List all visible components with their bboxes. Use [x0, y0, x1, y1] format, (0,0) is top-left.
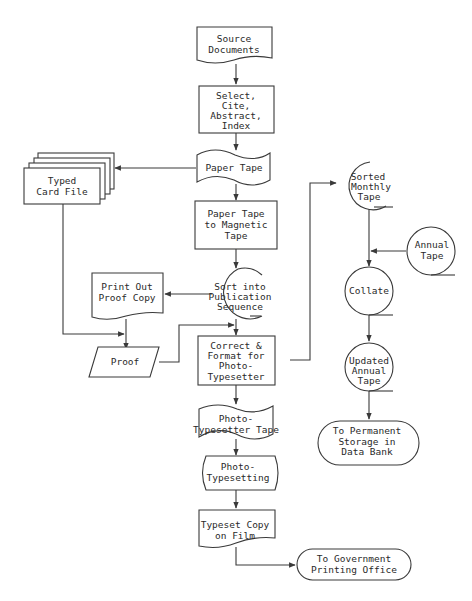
node-label: Printing Office	[311, 564, 397, 575]
node-sorted-monthly-tape[interactable]: Sorted Monthly Tape	[349, 162, 393, 210]
node-label: Typesetter	[207, 371, 264, 382]
node-label: Typed	[48, 175, 77, 186]
node-phototypesetter-tape[interactable]: Photo- Typesetter Tape	[193, 405, 279, 439]
node-label: Collate	[349, 285, 389, 296]
node-label: Annual	[415, 239, 449, 250]
flowchart-canvas: Source Documents Select, Cite, Abstract,…	[0, 0, 472, 601]
node-government-printing-office[interactable]: To Government Printing Office	[297, 549, 411, 580]
node-label: Print Out	[101, 281, 152, 292]
node-sort-into-publication-sequence[interactable]: Sort into Publication Sequence	[209, 268, 272, 319]
node-label: Tape	[358, 191, 381, 202]
node-label: Paper Tape	[205, 162, 262, 173]
node-label: Tape	[225, 230, 248, 241]
node-collate[interactable]: Collate	[345, 267, 393, 315]
node-label: Proof	[111, 356, 140, 367]
node-label: Card File	[36, 186, 88, 197]
node-updated-annual-tape[interactable]: Updated Annual Tape	[345, 343, 393, 391]
node-label: Index	[222, 120, 251, 131]
node-label: Paper Tape	[207, 208, 264, 219]
node-label: Tape	[421, 250, 444, 261]
node-label: Data Bank	[341, 446, 393, 457]
node-annual-tape[interactable]: Annual Tape	[407, 227, 455, 275]
node-proof[interactable]: Proof	[89, 347, 159, 377]
node-typed-card-file[interactable]: Typed Card File	[24, 153, 114, 204]
node-correct-format-phototypesetter[interactable]: Correct & Format for Photo- Typesetter	[198, 336, 275, 385]
node-label: To Government	[317, 553, 391, 564]
node-print-out-proof-copy[interactable]: Print Out Proof Copy	[92, 273, 163, 319]
node-label: Proof Copy	[98, 292, 155, 303]
node-label: Tape	[358, 375, 381, 386]
node-paper-tape-to-magnetic-tape[interactable]: Paper Tape to Magnetic Tape	[195, 201, 277, 249]
edge-film-to-gpo	[236, 547, 295, 565]
node-label: Photo-	[219, 413, 253, 424]
node-label: To Permanent	[333, 425, 402, 436]
node-typeset-copy-on-film[interactable]: Typeset Copy on Film	[199, 510, 275, 547]
node-label: Photo-	[221, 461, 255, 472]
node-label: Typesetter Tape	[193, 424, 279, 435]
edge-correct-to-monthly	[290, 183, 336, 360]
node-label: Typesetting	[207, 472, 270, 483]
node-permanent-storage[interactable]: To Permanent Storage in Data Bank	[318, 421, 419, 465]
node-phototypesetting[interactable]: Photo- Typesetting	[203, 456, 279, 490]
node-label: to Magnetic	[205, 219, 268, 230]
node-label: Photo-	[219, 360, 253, 371]
node-select-cite-abstract-index[interactable]: Select, Cite, Abstract, Index	[199, 86, 274, 133]
node-label: Typeset Copy	[201, 519, 270, 530]
node-label: Source	[217, 33, 252, 44]
node-source-documents[interactable]: Source Documents	[197, 27, 272, 63]
node-label: Documents	[208, 44, 259, 55]
node-label: Sequence	[217, 301, 263, 312]
node-paper-tape[interactable]: Paper Tape	[197, 150, 270, 185]
node-label: on Film	[215, 530, 255, 541]
